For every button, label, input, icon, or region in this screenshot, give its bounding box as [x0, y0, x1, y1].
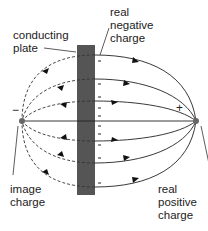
- real-line-arrows: [111, 57, 139, 183]
- image-charge-dot: [19, 118, 25, 124]
- conducting-plate-label: conducting plate: [13, 29, 69, 55]
- image-charge-label: image charge: [10, 183, 45, 209]
- image-charge-sign: −: [12, 104, 19, 117]
- real-field-lines: [22, 55, 196, 187]
- conducting-plate: [77, 45, 95, 195]
- real-charge-sign: +: [176, 102, 183, 115]
- real-positive-charge-label: real positive charge: [158, 183, 197, 222]
- real-negative-charge-label: real negative charge: [110, 6, 153, 45]
- real-charge-dot: [193, 118, 199, 124]
